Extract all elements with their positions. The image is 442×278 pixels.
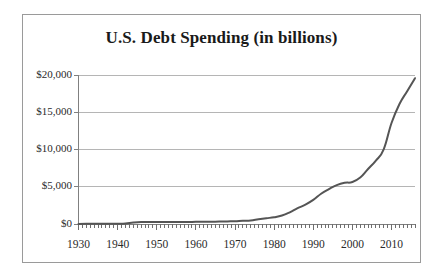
x-axis-tick-label: 1990 (291, 238, 335, 250)
x-axis-tick-label: 2010 (370, 238, 414, 250)
chart-plot-area (0, 0, 442, 278)
data-series-line (79, 78, 416, 224)
x-axis-minor-tick-marks (79, 224, 416, 230)
x-axis-tick-label: 1980 (252, 238, 296, 250)
y-axis-tick-marks (74, 75, 79, 224)
chart-figure: U.S. Debt Spending (in billions) $0$5,00… (0, 0, 442, 278)
y-axis-tick-label: $15,000 (14, 105, 72, 117)
x-axis-tick-label: 1960 (174, 238, 218, 250)
gridlines (79, 75, 416, 224)
y-axis-tick-label: $0 (14, 217, 72, 229)
x-axis-tick-label: 1930 (57, 238, 101, 250)
y-axis-tick-label: $10,000 (14, 142, 72, 154)
y-axis-tick-label: $5,000 (14, 179, 72, 191)
x-axis-tick-label: 1970 (213, 238, 257, 250)
y-axis-tick-label: $20,000 (14, 68, 72, 80)
x-axis-tick-label: 2000 (330, 238, 374, 250)
x-axis-tick-label: 1940 (96, 238, 140, 250)
x-axis-tick-label: 1950 (135, 238, 179, 250)
series-line-us-debt-spending (79, 78, 416, 224)
